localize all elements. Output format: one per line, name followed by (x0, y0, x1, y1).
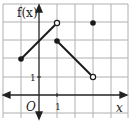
function-graph: f(x) x O 1 1 (0, 0, 129, 124)
x-axis (3, 92, 127, 98)
open-point (54, 20, 59, 25)
segment-1 (21, 25, 55, 59)
y-axis-label: f(x) (17, 6, 38, 20)
origin-label: O (26, 100, 36, 114)
y-tick-label: 1 (30, 73, 36, 83)
isolated-closed-point (90, 20, 96, 26)
x-axis-right-arrow-icon (120, 92, 127, 98)
closed-point (54, 38, 60, 44)
open-point (90, 74, 95, 79)
x-axis-label: x (116, 101, 123, 115)
x-tick-label: 1 (55, 102, 61, 112)
x-axis-left-arrow-icon (3, 92, 10, 98)
closed-point (18, 56, 24, 62)
y-axis-down-arrow-icon (36, 112, 42, 119)
